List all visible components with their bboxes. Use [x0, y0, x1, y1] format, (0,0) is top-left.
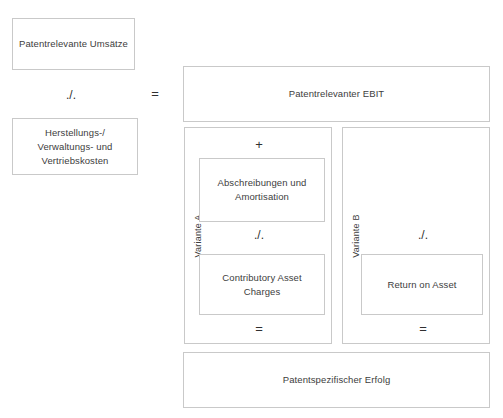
herstellungs-verwaltungs-vertriebskosten-box: Herstellungs-/ Verwaltungs- und Vertrieb…	[12, 118, 138, 175]
patentrelevante-umsaetze-label: Patentrelevante Umsätze	[15, 35, 132, 53]
equals-operator: =	[140, 88, 170, 100]
diagram-canvas: Patentrelevante Umsätze ./. Herstellungs…	[0, 0, 503, 418]
cac-line-2: Charges	[244, 286, 281, 297]
kosten-line-1: Herstellungs-/	[45, 127, 105, 138]
variante-b-equals-operator: =	[403, 323, 443, 335]
patentspezifischer-erfolg-box: Patentspezifischer Erfolg	[183, 352, 490, 408]
patentrelevanter-ebit-label: Patentrelevanter EBIT	[285, 85, 389, 103]
patentrelevante-umsaetze-box: Patentrelevante Umsätze	[12, 18, 135, 70]
contributory-asset-charges-box: Contributory Asset Charges	[199, 254, 325, 315]
variante-a-panel: Variante A + Abschreibungen und Amortisa…	[184, 127, 332, 344]
return-on-asset-label: Return on Asset	[383, 276, 460, 294]
variante-a-plus-operator: +	[239, 139, 279, 151]
variante-b-minus-operator: ./.	[403, 229, 443, 241]
variante-a-equals-operator: =	[239, 323, 279, 335]
variante-b-panel: Variante B ./. Return on Asset =	[342, 127, 490, 344]
variante-b-label: Variante B	[351, 206, 361, 266]
return-on-asset-box: Return on Asset	[361, 254, 483, 315]
kosten-label: Herstellungs-/ Verwaltungs- und Vertrieb…	[33, 124, 116, 170]
abschreibungen-line-1: Abschreibungen und	[218, 177, 307, 188]
abschreibungen-line-2: Amortisation	[235, 191, 289, 202]
variante-a-minus-operator: ./.	[239, 229, 279, 241]
contributory-asset-charges-label: Contributory Asset Charges	[218, 269, 305, 301]
patentrelevanter-ebit-box: Patentrelevanter EBIT	[183, 66, 490, 122]
cac-line-1: Contributory Asset	[222, 272, 301, 283]
kosten-line-2: Verwaltungs- und	[37, 141, 112, 152]
patentspezifischer-erfolg-label: Patentspezifischer Erfolg	[279, 371, 395, 389]
abschreibungen-amortisation-box: Abschreibungen und Amortisation	[199, 158, 325, 222]
kosten-line-3: Vertriebskosten	[42, 155, 109, 166]
abschreibungen-label: Abschreibungen und Amortisation	[214, 174, 311, 206]
left-minus-operator: ./.	[46, 89, 96, 101]
